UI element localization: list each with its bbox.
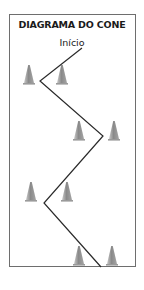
cone-icon: [23, 65, 35, 85]
cone-icon: [61, 182, 73, 202]
cone-icon: [106, 246, 118, 266]
cone-course-diagram: [0, 0, 144, 290]
cone-icon: [73, 121, 85, 141]
cone-icon: [108, 121, 120, 141]
zigzag-path: [40, 48, 103, 267]
cone-icon: [73, 246, 85, 266]
cone-icon: [25, 182, 37, 202]
cones-group: [23, 65, 120, 266]
cone-icon: [56, 65, 68, 85]
